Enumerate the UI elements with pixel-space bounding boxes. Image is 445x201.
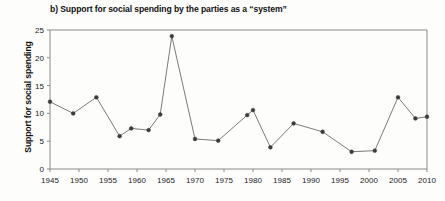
data-point-marker [158,113,162,117]
x-tick-label: 2010 [418,176,436,185]
data-point-marker [321,130,325,134]
x-tick-label: 1945 [41,176,59,185]
line-chart-plot: 0510152025 19451950195519601965197019751… [0,0,445,201]
y-tick-label: 5 [40,137,45,146]
y-tick-label: 0 [40,165,45,174]
x-tick-label: 1950 [70,176,88,185]
data-point-marker [350,150,354,154]
data-point-marker [245,113,249,117]
x-tick-label: 1960 [128,176,146,185]
axis-frame [50,30,427,169]
x-tick-label: 1990 [302,176,320,185]
x-tick-label: 2005 [389,176,407,185]
data-point-marker [396,95,400,99]
data-point-marker [118,134,122,138]
x-tick-label: 2000 [360,176,378,185]
data-point-marker [373,149,377,153]
data-point-marker [414,117,418,121]
data-point-marker [71,112,75,116]
data-point-marker [292,122,296,126]
x-tick-label: 1955 [99,176,117,185]
data-point-marker [48,100,52,104]
x-tick-label: 1965 [157,176,175,185]
data-point-marker [216,139,220,143]
x-tick-label: 1975 [215,176,233,185]
x-tick-label: 1985 [273,176,291,185]
y-tick-label: 10 [35,109,44,118]
y-tick-label: 20 [35,54,44,63]
data-point-marker [251,108,255,112]
x-tick-label: 1995 [331,176,349,185]
data-point-marker [129,127,133,131]
chart-figure: b) Support for social spending by the pa… [0,0,445,201]
y-tick-label: 25 [35,26,44,35]
data-point-marker [147,128,151,132]
data-point-marker [170,34,174,38]
data-point-marker [193,137,197,141]
data-point-marker [269,145,273,149]
y-tick-label: 15 [35,82,44,91]
x-tick-label: 1970 [186,176,204,185]
x-axis-ticks: 1945195019551960196519701975198019851990… [41,169,436,185]
y-axis-ticks: 0510152025 [35,26,50,174]
data-point-marker [95,95,99,99]
data-point-marker [425,115,429,119]
data-series [48,34,429,153]
x-tick-label: 1980 [244,176,262,185]
series-line [50,36,427,152]
